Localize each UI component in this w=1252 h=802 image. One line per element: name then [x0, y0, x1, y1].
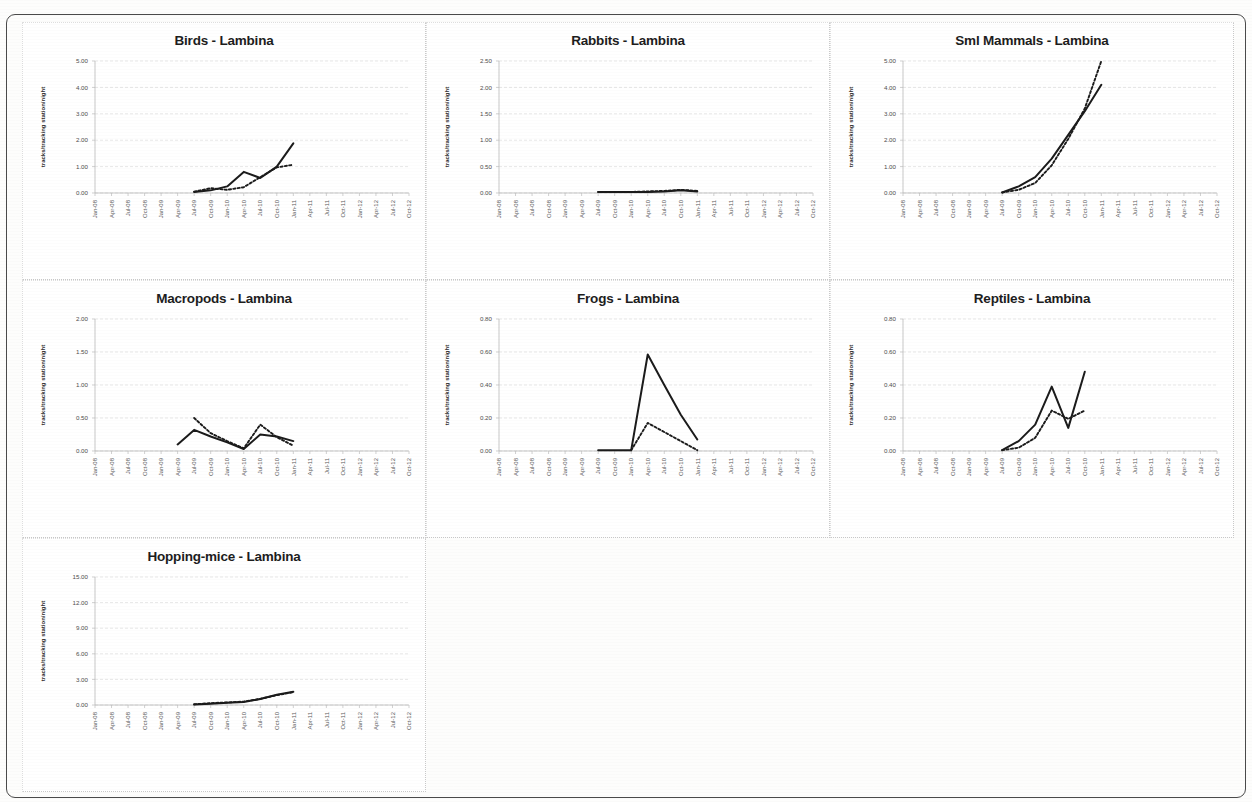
x-tick-label: Jul-11 [1132, 199, 1138, 216]
y-tick-label: 0.40 [884, 381, 897, 388]
y-tick-label: 15.00 [73, 573, 89, 580]
x-tick-label: Jul-10 [1065, 457, 1071, 474]
x-tick-label: Oct-12 [1214, 457, 1220, 476]
y-tick-label: 5.00 [76, 57, 89, 64]
x-tick-label: Oct-08 [950, 199, 956, 218]
y-tick-label: 0.00 [76, 447, 89, 454]
y-tick-label: 0.20 [884, 414, 897, 421]
x-tick-label: Apr-11 [307, 711, 313, 729]
x-tick-label: Apr-10 [1049, 199, 1055, 218]
y-axis-label: tracks/tracking station/night [40, 601, 46, 681]
x-tick-label: Oct-11 [340, 199, 346, 217]
series-line-dotted [194, 165, 293, 192]
x-tick-label: Jul-12 [1198, 457, 1204, 474]
chart-plot: 0.000.501.001.502.00Jan-08Apr-08Jul-08Oc… [23, 307, 425, 537]
x-tick-label: Oct-11 [340, 711, 346, 729]
y-tick-label: 3.00 [884, 110, 897, 117]
x-tick-label: Jul-11 [324, 457, 330, 474]
chart-title: Birds - Lambina [23, 33, 425, 48]
x-tick-label: Oct-08 [950, 457, 956, 476]
y-tick-label: 9.00 [76, 624, 89, 631]
series-line-dotted [598, 190, 697, 192]
x-tick-label: Oct-12 [1214, 199, 1220, 218]
x-tick-label: Oct-12 [406, 711, 412, 730]
x-tick-label: Oct-09 [612, 457, 618, 476]
x-tick-label: Oct-09 [1016, 199, 1022, 218]
y-tick-label: 0.20 [480, 414, 493, 421]
series-line-solid [178, 430, 294, 449]
y-tick-label: 3.00 [76, 676, 89, 683]
x-tick-label: Oct-12 [810, 457, 816, 476]
x-tick-label: Apr-09 [579, 199, 585, 218]
x-tick-label: Jul-11 [728, 199, 734, 216]
x-tick-label: Apr-08 [109, 457, 115, 476]
x-tick-label: Jan-09 [562, 199, 568, 218]
x-tick-label: Jan-08 [496, 457, 502, 476]
y-axis-label: tracks/tracking station/night [40, 87, 46, 167]
y-tick-label: 0.80 [884, 315, 897, 322]
y-tick-label: 3.00 [76, 110, 89, 117]
y-tick-label: 0.00 [884, 447, 897, 454]
y-axis-label: tracks/tracking station/night [848, 87, 854, 167]
y-tick-label: 2.50 [480, 57, 493, 64]
x-tick-label: Apr-09 [175, 711, 181, 730]
x-tick-label: Apr-12 [777, 199, 783, 218]
x-tick-label: Jul-12 [390, 711, 396, 728]
chart-title: Hopping-mice - Lambina [23, 549, 425, 564]
x-tick-label: Apr-09 [983, 457, 989, 476]
x-tick-label: Jan-12 [761, 457, 767, 476]
series-line-solid [1002, 372, 1085, 450]
y-tick-label: 0.00 [480, 447, 493, 454]
x-tick-label: Apr-09 [175, 199, 181, 218]
x-tick-label: Jul-10 [257, 199, 263, 216]
x-tick-label: Jan-08 [92, 457, 98, 476]
y-tick-label: 12.00 [73, 599, 89, 606]
chart-panel: Sml Mammals - Lambina0.001.002.003.004.0… [830, 22, 1234, 280]
x-tick-label: Oct-10 [1082, 199, 1088, 218]
x-tick-label: Jan-12 [357, 199, 363, 218]
x-tick-label: Jan-10 [628, 199, 634, 218]
x-tick-label: Jan-11 [291, 711, 297, 730]
x-tick-label: Jan-08 [900, 457, 906, 476]
x-tick-label: Jul-08 [529, 199, 535, 216]
chart-panel: Reptiles - Lambina0.000.200.400.600.80Ja… [830, 280, 1234, 538]
x-tick-label: Apr-10 [645, 457, 651, 476]
x-tick-label: Oct-08 [142, 711, 148, 730]
x-tick-label: Jan-09 [158, 457, 164, 476]
x-tick-label: Jan-12 [1165, 457, 1171, 476]
x-tick-label: Oct-11 [744, 457, 750, 475]
x-tick-label: Apr-12 [373, 199, 379, 218]
x-tick-label: Oct-08 [546, 199, 552, 218]
x-tick-label: Apr-09 [983, 199, 989, 218]
x-tick-label: Jan-08 [496, 199, 502, 218]
x-tick-label: Jan-12 [761, 199, 767, 218]
chart-plot: 0.003.006.009.0012.0015.00Jan-08Apr-08Ju… [23, 565, 425, 791]
x-tick-label: Oct-10 [1082, 457, 1088, 476]
y-tick-label: 2.00 [76, 315, 89, 322]
x-tick-label: Jul-12 [390, 457, 396, 474]
x-tick-label: Jan-10 [224, 457, 230, 476]
x-tick-label: Apr-11 [1115, 457, 1121, 475]
x-tick-label: Oct-09 [612, 199, 618, 218]
chart-panel: Birds - Lambina0.001.002.003.004.005.00J… [22, 22, 426, 280]
series-line-dotted [1002, 61, 1101, 192]
x-tick-label: Jul-12 [794, 457, 800, 474]
x-tick-label: Jul-10 [1065, 199, 1071, 216]
x-tick-label: Jul-09 [999, 199, 1005, 216]
y-tick-label: 0.60 [480, 348, 493, 355]
chart-plot: 0.000.501.001.502.002.50Jan-08Apr-08Jul-… [427, 49, 829, 279]
x-tick-label: Apr-12 [373, 711, 379, 730]
y-tick-label: 5.00 [884, 57, 897, 64]
x-tick-label: Jan-12 [357, 711, 363, 730]
y-tick-label: 6.00 [76, 650, 89, 657]
chart-panel: Rabbits - Lambina0.000.501.001.502.002.5… [426, 22, 830, 280]
x-tick-label: Jul-12 [1198, 199, 1204, 216]
y-tick-label: 1.00 [480, 136, 493, 143]
chart-title: Sml Mammals - Lambina [831, 33, 1233, 48]
x-tick-label: Apr-09 [175, 457, 181, 476]
x-tick-label: Jul-09 [999, 457, 1005, 474]
y-axis-label: tracks/tracking station/night [848, 345, 854, 425]
x-tick-label: Apr-11 [711, 199, 717, 217]
x-tick-label: Apr-08 [513, 457, 519, 476]
x-tick-label: Oct-08 [142, 199, 148, 218]
